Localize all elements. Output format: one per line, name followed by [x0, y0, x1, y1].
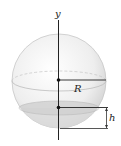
height-label: h	[109, 112, 115, 123]
sphere-diagram: y R h	[0, 0, 121, 146]
center-dot	[57, 78, 61, 82]
arrow-up-icon	[105, 108, 108, 111]
y-axis-label: y	[54, 8, 61, 19]
arrow-down-icon	[105, 125, 108, 128]
radius-label: R	[73, 83, 82, 94]
cap-dot	[57, 106, 61, 110]
